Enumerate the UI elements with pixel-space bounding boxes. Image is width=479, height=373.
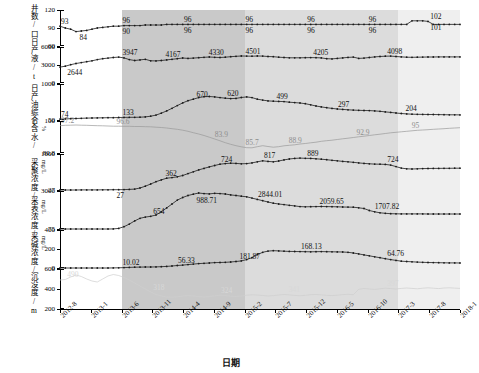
series-marker — [363, 254, 365, 256]
series-marker — [406, 168, 408, 170]
series-marker — [166, 207, 168, 209]
series-marker — [320, 158, 322, 160]
series-marker — [358, 207, 360, 209]
series-marker — [118, 56, 120, 58]
data-label: 96 — [123, 16, 131, 25]
series-marker — [310, 206, 312, 208]
series-marker — [368, 255, 370, 257]
series-marker — [374, 163, 376, 165]
series-marker — [352, 252, 354, 254]
series-marker — [256, 98, 258, 100]
y-axis-title: mg/L — [41, 200, 47, 214]
data-label: 97.2 — [61, 116, 74, 125]
series-marker — [182, 175, 184, 177]
series-marker — [198, 169, 200, 171]
data-label: 397 — [387, 279, 398, 288]
series-marker — [304, 251, 306, 253]
series-marker — [171, 107, 173, 109]
series-marker — [304, 157, 306, 159]
series-marker — [267, 24, 269, 26]
series-marker — [395, 24, 397, 26]
data-label: 3947 — [123, 48, 138, 57]
y-axis-title: 采聚浓度/ — [30, 158, 38, 200]
series-marker — [134, 25, 136, 27]
series-marker — [240, 195, 242, 197]
series-marker — [192, 171, 194, 173]
data-label: 620 — [227, 89, 238, 98]
series-marker — [427, 21, 429, 23]
series-marker — [352, 24, 354, 26]
data-label: 2059.65 — [319, 197, 343, 206]
series-marker — [352, 206, 354, 208]
data-label: 724 — [387, 155, 398, 164]
series-marker — [166, 24, 168, 26]
data-label: 324 — [221, 286, 232, 295]
series-marker — [171, 203, 173, 205]
series-marker — [107, 57, 109, 59]
series-marker — [283, 250, 285, 252]
series-marker — [86, 61, 88, 63]
data-label: 96.6 — [116, 117, 129, 126]
series-marker — [176, 105, 178, 107]
series-marker — [379, 212, 381, 214]
series-marker — [192, 57, 194, 59]
series-marker — [235, 55, 237, 57]
series-marker — [352, 56, 354, 58]
series-marker — [208, 96, 210, 98]
series-marker — [299, 206, 301, 208]
series-marker — [294, 158, 296, 160]
data-label: 102 — [430, 12, 441, 21]
series-marker — [406, 56, 408, 58]
series-marker — [144, 58, 146, 60]
series-marker — [406, 24, 408, 26]
series-marker — [64, 65, 66, 67]
series-marker — [224, 56, 226, 58]
series-marker — [208, 193, 210, 195]
series-marker — [315, 206, 317, 208]
series-marker — [288, 158, 290, 160]
data-label: 93 — [61, 17, 69, 26]
series-marker — [160, 60, 162, 62]
series-marker — [155, 60, 157, 62]
data-label: 96 — [369, 26, 377, 35]
series-marker — [187, 100, 189, 102]
series-marker — [379, 257, 381, 259]
series-marker — [310, 158, 312, 160]
series-marker — [272, 100, 274, 102]
series-marker — [347, 161, 349, 163]
data-label: 362 — [166, 169, 177, 178]
series-marker — [315, 105, 317, 107]
series-marker — [187, 58, 189, 60]
series-marker — [416, 20, 418, 22]
series-marker — [272, 24, 274, 26]
series-marker — [214, 24, 216, 26]
data-label: 499 — [276, 92, 287, 101]
series-marker — [118, 25, 120, 27]
series-marker — [379, 24, 381, 26]
series-marker — [208, 166, 210, 168]
data-label: 341 — [289, 285, 300, 294]
series-marker — [336, 251, 338, 253]
series-marker — [107, 26, 109, 28]
series-marker — [363, 24, 365, 26]
data-label: 96 — [307, 15, 315, 24]
series-marker — [187, 195, 189, 197]
series-marker — [342, 57, 344, 59]
series-marker — [320, 57, 322, 59]
data-label: 297 — [338, 100, 349, 109]
series-marker — [272, 202, 274, 204]
x-tick-label: 2018-1 — [459, 300, 479, 320]
series-marker — [262, 24, 264, 26]
series-marker — [384, 55, 386, 57]
data-label: 889 — [307, 149, 318, 158]
series-marker — [246, 163, 248, 165]
data-label: 4167 — [166, 50, 181, 59]
series-marker — [347, 206, 349, 208]
series-marker — [443, 24, 445, 26]
series-marker — [134, 220, 136, 222]
series-marker — [235, 163, 237, 165]
series-marker — [331, 159, 333, 161]
series-marker — [251, 162, 253, 164]
data-label: 96 — [369, 15, 377, 24]
